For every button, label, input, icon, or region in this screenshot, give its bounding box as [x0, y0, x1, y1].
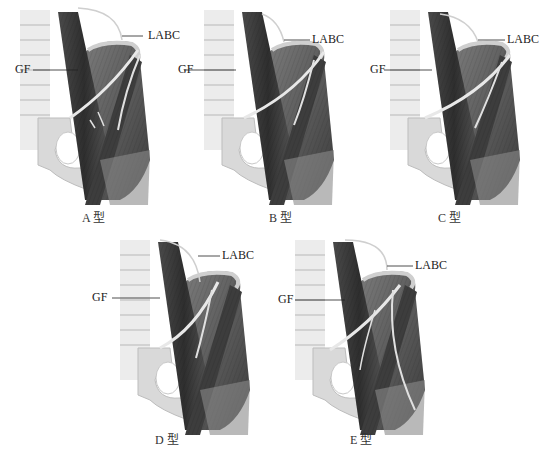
panel-caption: D 型	[155, 430, 179, 448]
panel-type-b: LABC GF B 型	[184, 0, 369, 225]
gf-label: GF	[92, 290, 107, 305]
labc-nerve-path	[78, 8, 122, 40]
gf-label-c: GF	[370, 62, 385, 77]
panel-caption: A 型	[82, 208, 105, 226]
panel-type-c: LABC C 型	[370, 0, 553, 225]
labc-label: LABC	[312, 32, 344, 47]
gf-label-b: GF	[178, 62, 193, 77]
panel-type-e: LABC GF E 型	[275, 230, 460, 455]
labc-label: LABC	[507, 32, 539, 47]
panel-caption: B 型	[269, 208, 292, 226]
thigh-anatomy-illustration	[100, 230, 285, 455]
panel-type-d: LABC GF D 型	[100, 230, 285, 455]
labc-label: LABC	[222, 248, 254, 263]
labc-label: LABC	[415, 258, 447, 273]
gf-label: GF	[15, 62, 30, 77]
panel-caption: E 型	[350, 430, 372, 448]
gf-label: GF	[278, 292, 293, 307]
panel-type-a: LABC GF A 型	[0, 0, 185, 225]
panel-caption: C 型	[438, 208, 461, 226]
labc-label: LABC	[148, 28, 180, 43]
